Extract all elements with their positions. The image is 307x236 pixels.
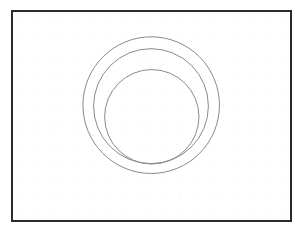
inner-circle[interactable] xyxy=(105,70,199,164)
drawing-layer[interactable] xyxy=(13,12,290,220)
drawing-svg[interactable] xyxy=(13,12,290,220)
app-root xyxy=(0,0,307,236)
canvas-frame[interactable] xyxy=(11,10,292,222)
middle-circle[interactable] xyxy=(94,49,209,164)
outer-circle[interactable] xyxy=(83,37,219,174)
